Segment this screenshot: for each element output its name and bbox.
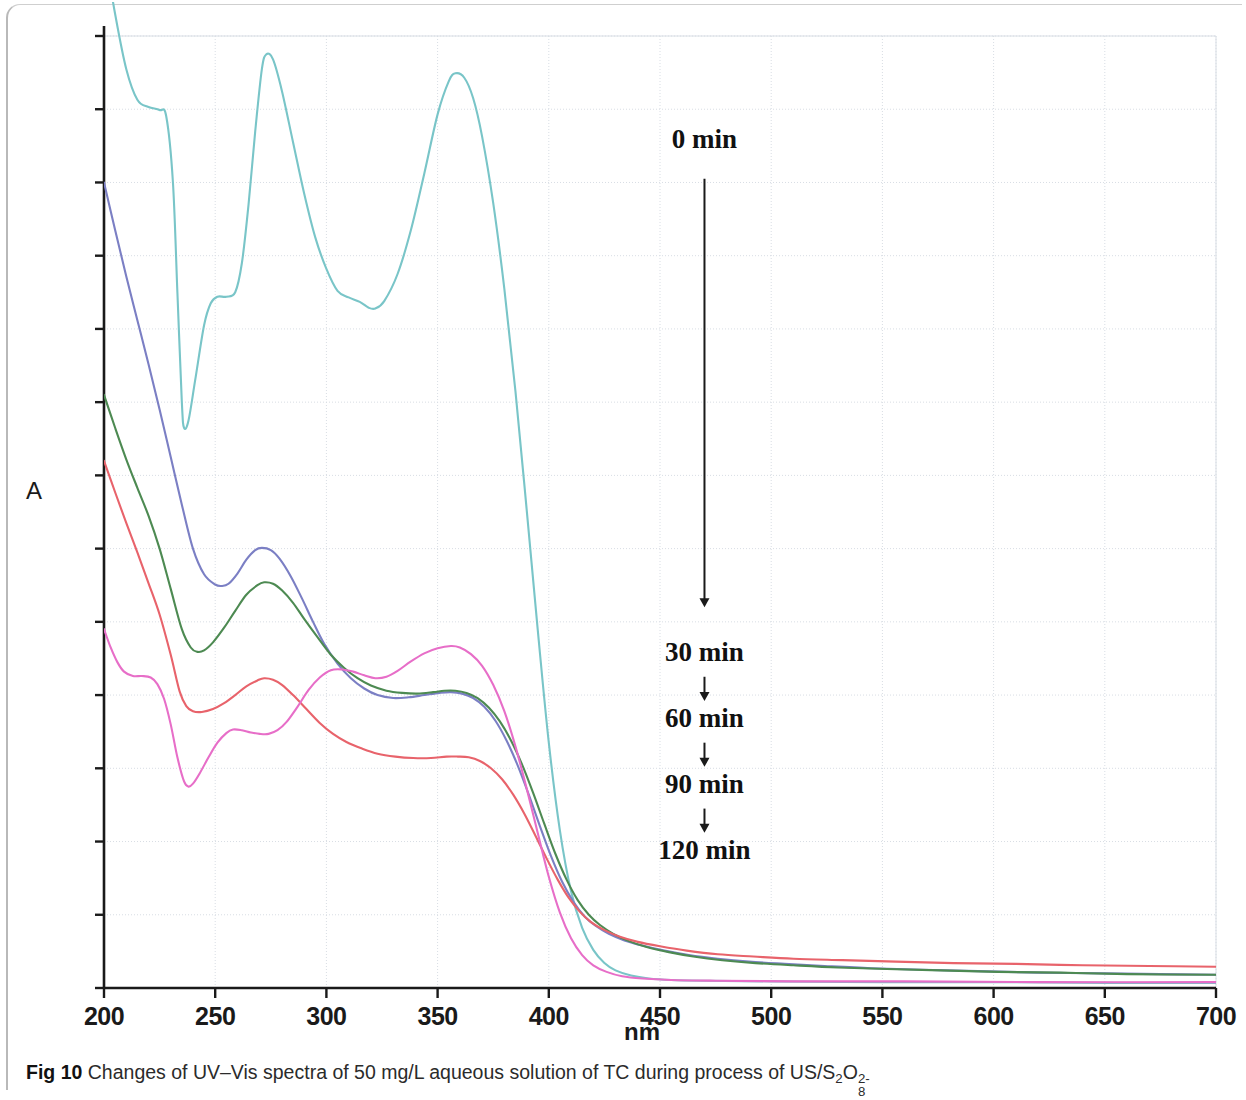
x-tick-label: 600 bbox=[949, 1002, 1039, 1031]
x-tick-label: 300 bbox=[281, 1002, 371, 1031]
annotation-120-min: 120 min bbox=[604, 835, 804, 866]
annotation-0-min: 0 min bbox=[604, 124, 804, 155]
x-tick-label: 700 bbox=[1171, 1002, 1246, 1031]
x-tick-label: 250 bbox=[170, 1002, 260, 1031]
x-tick-label: 200 bbox=[59, 1002, 149, 1031]
caption-oxygen: O bbox=[843, 1061, 858, 1083]
annotation-90-min: 90 min bbox=[604, 769, 804, 800]
x-tick-label: 650 bbox=[1060, 1002, 1150, 1031]
x-tick-label: 350 bbox=[393, 1002, 483, 1031]
x-tick-label: 550 bbox=[837, 1002, 927, 1031]
x-tick-label: 400 bbox=[504, 1002, 594, 1031]
chart-plot-area: 0.000.10.20.30.40.50.60.70.80.91.01.11.2… bbox=[0, 0, 1246, 1050]
caption-figure-number: Fig 10 bbox=[26, 1061, 82, 1083]
caption-sub-8: 8 bbox=[858, 1084, 865, 1100]
y-axis-title: A bbox=[26, 477, 42, 505]
caption-sub-2: 2 bbox=[835, 1071, 842, 1086]
annotation-60-min: 60 min bbox=[604, 703, 804, 734]
x-axis-tick-labels: 200250300350400450500550600650700 bbox=[0, 0, 1246, 1050]
x-axis-title: nm bbox=[624, 1018, 660, 1046]
x-tick-label: 500 bbox=[726, 1002, 816, 1031]
figure-caption: Fig 10 Changes of UV–Vis spectra of 50 m… bbox=[26, 1061, 1206, 1087]
caption-text: Changes of UV–Vis spectra of 50 mg/L aqu… bbox=[88, 1061, 836, 1083]
annotation-30-min: 30 min bbox=[604, 637, 804, 668]
